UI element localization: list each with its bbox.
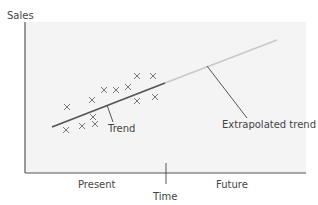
future-label: Future: [216, 179, 248, 190]
x-axis-label: Time: [152, 191, 177, 202]
extrapolated-label: Extrapolated trend: [222, 119, 316, 130]
sales-trend-diagram: Sales Trend Extrapolated trend Present F…: [0, 0, 318, 205]
present-label: Present: [78, 179, 116, 190]
trend-label: Trend: [107, 123, 135, 134]
y-axis-label: Sales: [7, 10, 34, 21]
